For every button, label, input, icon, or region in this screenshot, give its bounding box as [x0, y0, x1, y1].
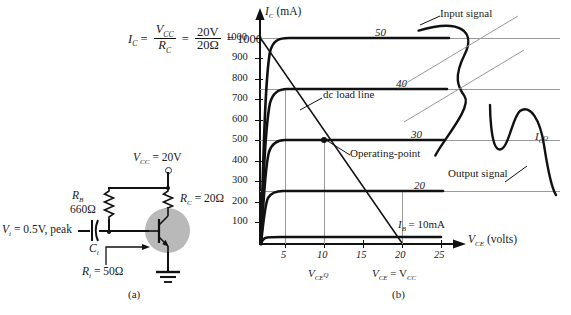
operating-point-leader [326, 140, 352, 158]
y-tick-label-800: 800 [232, 73, 248, 84]
emitter-to-ground-wire [167, 252, 169, 272]
figure-root: IC = VCC RC = 20V 20Ω = 1000 VCC = 20V [0, 0, 571, 315]
icq-label: ICQ [535, 131, 548, 145]
formula-eq2: = [182, 32, 189, 46]
rb-value: 660Ω [70, 204, 96, 216]
x-tick-label-5: 5 [281, 250, 286, 261]
y-tick-label-500: 500 [232, 134, 248, 145]
y-tick-label-1000: 1000 [226, 32, 247, 43]
x-axis-label: VCE (volts) [468, 234, 517, 248]
x-tick-label-15: 15 [356, 250, 367, 261]
output-signal-label: Output signal [448, 168, 508, 179]
formula-num1-sub: CC [163, 30, 173, 39]
formula-den1: R [158, 38, 166, 52]
formula-den1-sub: C [166, 46, 171, 55]
supply-rail-horizontal [108, 187, 168, 189]
ci-label: Ci [89, 243, 99, 257]
ri-pointer [100, 233, 152, 266]
formula-fraction-1: VCC RC [154, 23, 176, 55]
formula-num2: 20V [195, 26, 221, 39]
caption-a: (a) [128, 288, 140, 300]
input-signal-label: Input signal [440, 8, 492, 19]
dc-load-line-label: dc load line [323, 89, 374, 100]
y-tick-label-300: 300 [232, 175, 248, 186]
y-tick-label-600: 600 [232, 114, 248, 125]
operating-point-label: Operating-point [350, 148, 420, 159]
y-tick-label-400: 400 [232, 155, 248, 166]
y-tick-label-700: 700 [232, 93, 248, 104]
x-tick-label-25: 25 [434, 250, 445, 261]
y-tick-label-900: 900 [232, 52, 248, 63]
vcc-label: VCC = 20V [133, 152, 182, 166]
input-signal-leader [420, 14, 442, 26]
vce-equals-vcc-label: VCE = VCC [372, 268, 416, 282]
vceq-label: VCEQ [308, 268, 328, 282]
rb-resistor [103, 188, 114, 220]
x-tick-label-20: 20 [395, 250, 406, 261]
ground-symbol [152, 270, 184, 286]
caption-b: (b) [392, 288, 405, 300]
y-tick-label-100: 100 [232, 216, 248, 227]
formula-fraction-2: 20V 20Ω [195, 26, 221, 52]
y-tick-label-200: 200 [232, 196, 248, 207]
curve-label-20: 20 [414, 180, 425, 191]
formula-eq1: = [140, 32, 147, 46]
formula-lhs-sub: C [132, 39, 137, 48]
dc-load-line-leader [300, 96, 324, 112]
x-tick-label-10: 10 [317, 250, 328, 261]
output-signal-leader [505, 166, 531, 184]
ri-label: Ri = 50Ω [82, 266, 123, 280]
cap-to-base-wire [99, 230, 149, 232]
vi-label: Vi = 0.5V, peak [2, 224, 72, 238]
formula-den2: 20Ω [195, 38, 221, 52]
